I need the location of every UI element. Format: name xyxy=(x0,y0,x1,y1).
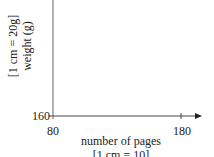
x-axis-label: number of pages xyxy=(66,134,176,148)
y-axis-title: [1 cm = 20g] weight (g) xyxy=(6,0,34,101)
y-axis-label: weight (g) xyxy=(20,0,34,101)
x-tick-label-80: 80 xyxy=(47,125,59,137)
x-axis-arrow-icon xyxy=(195,113,202,119)
x-axis-scale: [1 cm = 10] xyxy=(66,148,176,157)
y-axis-scale: [1 cm = 20g] xyxy=(6,0,20,101)
x-axis-title: number of pages [1 cm = 10] xyxy=(66,134,176,157)
y-tick-label-160: 160 xyxy=(32,110,50,122)
